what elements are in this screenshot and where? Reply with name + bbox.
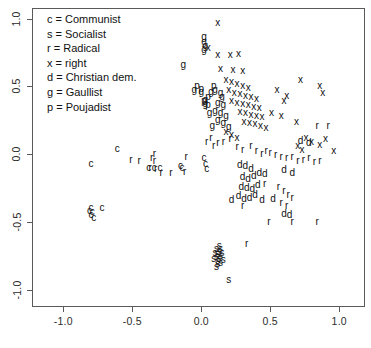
y-axis-tick: [27, 19, 32, 20]
data-point-r: r: [267, 217, 270, 227]
scatter-chart: ccccccccccccccccsssssssssssssssssrrrrrrr…: [0, 0, 371, 348]
data-point-r: r: [282, 186, 285, 196]
data-point-c: c: [87, 206, 92, 216]
x-axis-tick: [270, 307, 271, 312]
data-point-x: x: [294, 117, 299, 127]
data-point-r: r: [277, 182, 280, 192]
legend-item-christian-dem: d = Christian dem.: [47, 70, 137, 85]
legend-item-gaullist: g = Gaullist: [47, 85, 137, 100]
data-point-x: x: [317, 140, 322, 150]
data-point-r: r: [280, 198, 283, 208]
data-point-d: d: [229, 195, 235, 205]
data-point-s: s: [218, 244, 223, 254]
data-point-x: x: [228, 50, 233, 60]
y-axis-tick: [27, 154, 32, 155]
y-axis-tick-label: -0.5: [11, 212, 23, 231]
data-point-x: x: [218, 64, 223, 74]
data-point-r: r: [183, 167, 186, 177]
data-point-r: r: [154, 164, 157, 174]
y-axis-tick-label: -1.0: [11, 280, 23, 299]
data-point-r: r: [315, 217, 318, 227]
data-point-c: c: [115, 144, 120, 154]
x-axis-tick: [339, 307, 340, 312]
data-point-r: r: [249, 141, 252, 151]
data-point-r: r: [313, 157, 316, 167]
data-point-r: r: [291, 193, 294, 203]
legend-item-right: x = right: [47, 56, 137, 71]
data-point-r: r: [291, 152, 294, 162]
data-point-d: d: [298, 136, 304, 146]
data-point-r: r: [280, 152, 283, 162]
data-point-x: x: [235, 133, 240, 143]
data-point-x: x: [226, 85, 231, 95]
y-axis-tick: [27, 86, 32, 87]
chart-legend: c = Communist s = Socialist r = Radical …: [47, 12, 137, 114]
data-point-d: d: [306, 138, 312, 148]
data-point-x: x: [253, 119, 258, 129]
data-point-p: p: [198, 84, 204, 94]
legend-item-socialist: s = Socialist: [47, 27, 137, 42]
y-axis-tick-label: 1.0: [10, 11, 22, 26]
data-point-x: x: [215, 50, 220, 60]
data-point-r: r: [160, 168, 163, 178]
data-point-x: x: [215, 18, 220, 28]
y-axis-tick: [27, 222, 32, 223]
y-axis-tick-label: 0.5: [10, 79, 22, 94]
data-point-x: x: [242, 117, 247, 127]
data-point-x: x: [320, 88, 325, 98]
y-axis-tick: [27, 290, 32, 291]
data-point-r: r: [212, 141, 215, 151]
data-point-r: r: [184, 152, 187, 162]
data-point-p: p: [211, 81, 217, 91]
data-point-d: d: [262, 169, 268, 179]
data-point-x: x: [229, 96, 234, 106]
x-axis-tick-label: -0.5: [123, 315, 142, 327]
data-point-s: s: [221, 255, 226, 265]
x-axis-tick: [132, 307, 133, 312]
data-point-d: d: [287, 210, 293, 220]
data-point-r: r: [285, 153, 288, 163]
data-point-g: g: [210, 121, 216, 131]
data-point-x: x: [298, 75, 303, 85]
data-point-d: d: [259, 195, 265, 205]
data-point-x: x: [230, 65, 235, 75]
data-point-p: p: [205, 100, 211, 110]
legend-item-poujadist: p = Poujadist: [47, 100, 137, 115]
data-point-r: r: [264, 146, 267, 156]
data-point-d: d: [281, 165, 287, 175]
legend-item-radical: r = Radical: [47, 41, 137, 56]
legend-item-communist: c = Communist: [47, 12, 137, 27]
data-point-d: d: [252, 190, 258, 200]
data-point-d: d: [289, 168, 295, 178]
data-point-r: r: [169, 168, 172, 178]
data-point-r: r: [326, 121, 329, 131]
x-axis-tick: [201, 307, 202, 312]
data-point-x: x: [323, 134, 328, 144]
data-point-x: x: [299, 145, 304, 155]
data-point-r: r: [286, 190, 289, 200]
data-point-x: x: [269, 108, 274, 118]
data-point-r: r: [318, 156, 321, 166]
data-point-x: x: [331, 146, 336, 156]
data-point-c: c: [88, 159, 93, 169]
data-point-r: r: [129, 155, 132, 165]
x-axis-tick-label: 1.0: [332, 315, 347, 327]
data-point-x: x: [258, 121, 263, 131]
data-point-x: x: [236, 49, 241, 59]
x-axis-tick-label: -1.0: [54, 315, 73, 327]
data-point-x: x: [224, 75, 229, 85]
data-point-r: r: [302, 155, 305, 165]
data-point-r: r: [149, 163, 152, 173]
data-point-c: c: [99, 203, 104, 213]
data-point-r: r: [263, 179, 266, 189]
y-axis-tick-label: 0.0: [10, 146, 22, 161]
data-point-r: r: [138, 156, 141, 166]
data-point-x: x: [264, 123, 269, 133]
data-point-r: r: [307, 153, 310, 163]
data-point-r: r: [245, 239, 248, 249]
data-point-r: r: [274, 150, 277, 160]
data-point-x: x: [282, 96, 287, 106]
x-axis-tick-label: 0.0: [194, 315, 209, 327]
data-point-s: s: [226, 275, 231, 285]
data-point-g: g: [201, 45, 207, 55]
